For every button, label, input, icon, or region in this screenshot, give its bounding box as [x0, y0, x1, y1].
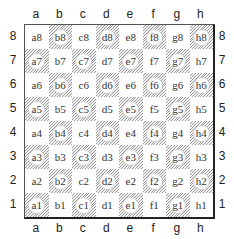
square-label: e7 — [122, 53, 139, 70]
square-a1[interactable]: a1 — [25, 193, 49, 217]
square-label: c2 — [79, 176, 89, 187]
file-label-top: f — [141, 8, 165, 20]
square-a7[interactable]: a7 — [25, 49, 49, 73]
square-g5[interactable]: g5 — [166, 97, 190, 121]
square-h4[interactable]: h4 — [190, 121, 214, 145]
square-f2[interactable]: f2 — [143, 169, 167, 193]
square-g6[interactable]: g6 — [166, 73, 190, 97]
square-d2[interactable]: d2 — [96, 169, 120, 193]
square-d7[interactable]: d7 — [96, 49, 120, 73]
square-h8[interactable]: h8 — [190, 25, 214, 49]
square-label: g2 — [172, 176, 183, 187]
rank-label-left: 8 — [7, 30, 19, 42]
square-h7[interactable]: h7 — [190, 49, 214, 73]
square-h2[interactable]: h2 — [190, 169, 214, 193]
square-d8[interactable]: d8 — [96, 25, 120, 49]
square-h3[interactable]: h3 — [190, 145, 214, 169]
rank-label-right: 7 — [216, 54, 228, 66]
square-label: b8 — [52, 29, 69, 46]
square-b6[interactable]: b6 — [49, 73, 73, 97]
square-f3[interactable]: f3 — [143, 145, 167, 169]
square-h6[interactable]: h6 — [190, 73, 214, 97]
square-label: e6 — [126, 80, 136, 91]
square-label: f4 — [146, 125, 163, 142]
square-a2[interactable]: a2 — [25, 169, 49, 193]
square-label: b1 — [55, 200, 66, 211]
file-label-top: e — [118, 8, 142, 20]
square-c3[interactable]: c3 — [72, 145, 96, 169]
square-g3[interactable]: g3 — [166, 145, 190, 169]
square-label: f8 — [146, 29, 163, 46]
square-label: g8 — [172, 32, 183, 43]
square-c5[interactable]: c5 — [72, 97, 96, 121]
square-label: a7 — [28, 53, 45, 70]
square-e4[interactable]: e4 — [119, 121, 143, 145]
square-c4[interactable]: c4 — [72, 121, 96, 145]
rank-label-left: 5 — [7, 102, 19, 114]
rank-label-left: 1 — [7, 198, 19, 210]
square-label: c6 — [79, 80, 89, 91]
square-e7[interactable]: e7 — [119, 49, 143, 73]
file-label-bottom: b — [47, 222, 71, 234]
file-label-top: b — [47, 8, 71, 20]
square-a8[interactable]: a8 — [25, 25, 49, 49]
square-label: d5 — [102, 104, 113, 115]
square-label: a5 — [28, 101, 45, 118]
square-f5[interactable]: f5 — [143, 97, 167, 121]
square-g7[interactable]: g7 — [166, 49, 190, 73]
square-c1[interactable]: c1 — [72, 193, 96, 217]
square-label: c3 — [75, 149, 92, 166]
square-label: c5 — [75, 101, 92, 118]
square-d3[interactable]: d3 — [96, 145, 120, 169]
square-c8[interactable]: c8 — [72, 25, 96, 49]
square-label: d2 — [99, 173, 116, 190]
rank-label-right: 3 — [216, 150, 228, 162]
square-b5[interactable]: b5 — [49, 97, 73, 121]
square-g8[interactable]: g8 — [166, 25, 190, 49]
square-e2[interactable]: e2 — [119, 169, 143, 193]
square-b8[interactable]: b8 — [49, 25, 73, 49]
square-label: c8 — [79, 32, 89, 43]
square-h5[interactable]: h5 — [190, 97, 214, 121]
file-label-top: g — [165, 8, 189, 20]
square-e5[interactable]: e5 — [119, 97, 143, 121]
square-b3[interactable]: b3 — [49, 145, 73, 169]
square-label: h6 — [193, 77, 210, 94]
square-b1[interactable]: b1 — [49, 193, 73, 217]
square-e8[interactable]: e8 — [119, 25, 143, 49]
square-b2[interactable]: b2 — [49, 169, 73, 193]
square-d4[interactable]: d4 — [96, 121, 120, 145]
square-label: a6 — [32, 80, 42, 91]
square-c6[interactable]: c6 — [72, 73, 96, 97]
square-d5[interactable]: d5 — [96, 97, 120, 121]
square-a5[interactable]: a5 — [25, 97, 49, 121]
square-c2[interactable]: c2 — [72, 169, 96, 193]
square-f7[interactable]: f7 — [143, 49, 167, 73]
square-f4[interactable]: f4 — [143, 121, 167, 145]
square-d6[interactable]: d6 — [96, 73, 120, 97]
square-b4[interactable]: b4 — [49, 121, 73, 145]
square-g1[interactable]: g1 — [166, 193, 190, 217]
square-label: g6 — [172, 80, 183, 91]
rank-label-right: 2 — [216, 174, 228, 186]
square-b7[interactable]: b7 — [49, 49, 73, 73]
square-g2[interactable]: g2 — [166, 169, 190, 193]
file-label-bottom: e — [118, 222, 142, 234]
rank-label-right: 4 — [216, 126, 228, 138]
square-h1[interactable]: h1 — [190, 193, 214, 217]
square-f6[interactable]: f6 — [143, 73, 167, 97]
square-e1[interactable]: e1 — [119, 193, 143, 217]
square-a4[interactable]: a4 — [25, 121, 49, 145]
square-f8[interactable]: f8 — [143, 25, 167, 49]
square-e3[interactable]: e3 — [119, 145, 143, 169]
square-c7[interactable]: c7 — [72, 49, 96, 73]
square-d1[interactable]: d1 — [96, 193, 120, 217]
square-a3[interactable]: a3 — [25, 145, 49, 169]
square-f1[interactable]: f1 — [143, 193, 167, 217]
square-label: a8 — [32, 32, 42, 43]
square-a6[interactable]: a6 — [25, 73, 49, 97]
square-label: e4 — [126, 128, 136, 139]
square-e6[interactable]: e6 — [119, 73, 143, 97]
square-g4[interactable]: g4 — [166, 121, 190, 145]
square-label: b2 — [52, 173, 69, 190]
